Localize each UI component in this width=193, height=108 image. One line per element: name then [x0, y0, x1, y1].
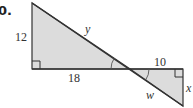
label-w: w [146, 88, 154, 102]
label-y: y [84, 22, 91, 36]
label-18: 18 [68, 71, 80, 85]
problem-number: 0. [0, 3, 12, 18]
label-x: x [185, 81, 192, 95]
label-10: 10 [154, 55, 166, 69]
label-12: 12 [15, 30, 27, 44]
similar-triangles-figure: 0. 12 18 y 10 x w [0, 0, 193, 108]
